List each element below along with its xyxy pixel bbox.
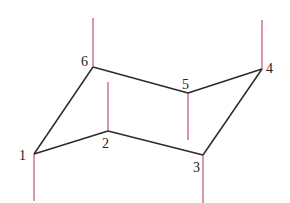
atom-label-3: 3 [193, 160, 200, 175]
atom-label-6: 6 [81, 54, 88, 69]
ring-bonds [34, 67, 262, 155]
atom-labels: 1 2 3 4 5 6 [19, 54, 273, 175]
bond-1-2 [34, 131, 108, 154]
chair-diagram: 1 2 3 4 5 6 [0, 0, 290, 203]
atom-label-2: 2 [102, 136, 109, 151]
bond-3-4 [203, 69, 262, 155]
bond-4-5 [188, 69, 262, 93]
atom-label-1: 1 [19, 148, 26, 163]
atom-label-4: 4 [266, 61, 273, 76]
bond-5-6 [93, 67, 188, 93]
axial-bonds [34, 18, 262, 203]
bond-6-1 [34, 67, 93, 154]
bond-2-3 [108, 131, 203, 155]
atom-label-5: 5 [182, 77, 189, 92]
